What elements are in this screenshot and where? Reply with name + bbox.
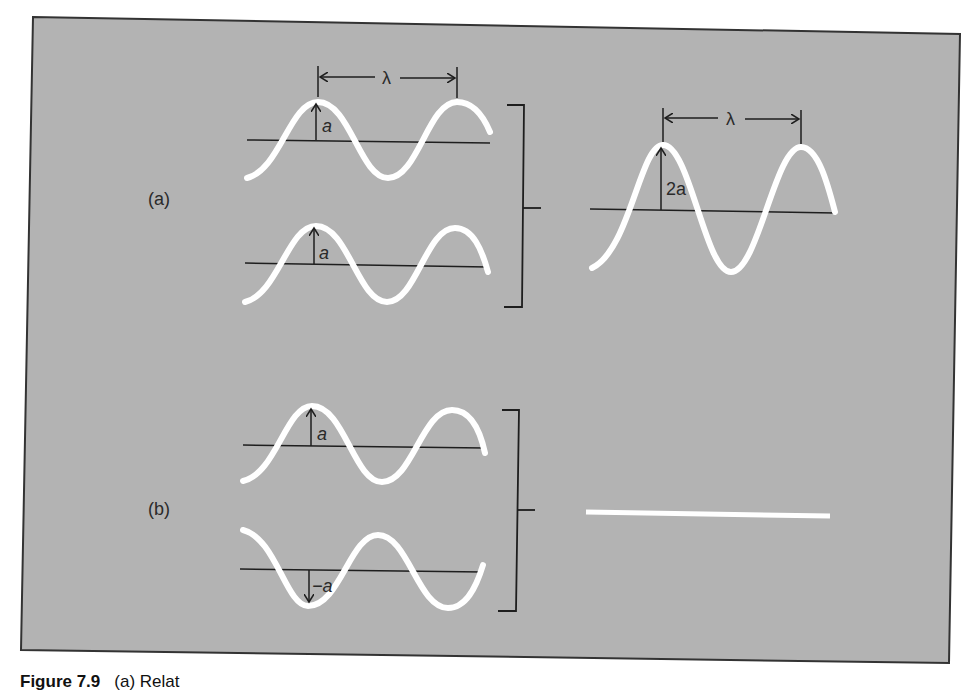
figure-caption: Figure 7.9(a) Relat	[20, 672, 180, 692]
figure-panel	[21, 17, 960, 663]
amplitude-label: −a	[312, 576, 333, 596]
panel-a-label: (a)	[148, 189, 170, 209]
wavelength-label: λ	[726, 109, 735, 129]
amplitude-label: a	[322, 116, 332, 136]
amplitude-label: 2a	[666, 179, 687, 199]
amplitude-label: a	[317, 424, 327, 444]
caption-text: (a) Relat	[114, 672, 179, 691]
wavelength-label: λ	[382, 68, 391, 88]
panel-b-label: (b)	[148, 499, 170, 519]
figure-number: Figure 7.9	[20, 672, 100, 691]
amplitude-label: a	[319, 243, 329, 263]
